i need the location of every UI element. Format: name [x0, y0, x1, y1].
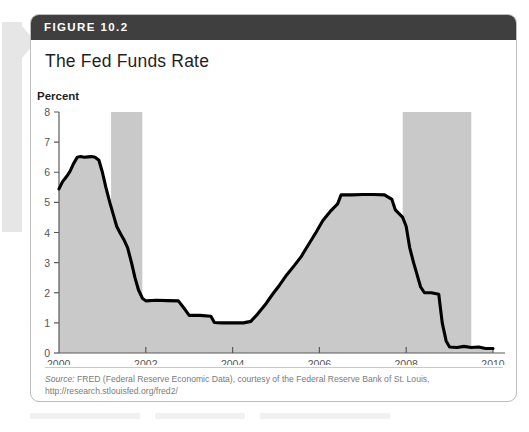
source-text: FRED (Federal Reserve Economic Data), co… — [75, 374, 430, 384]
figure-header-bar: FIGURE 10.2 — [30, 14, 517, 40]
source-note: Source: FRED (Federal Reserve Economic D… — [45, 373, 505, 397]
y-axis-ticks: 012345678 — [44, 106, 59, 359]
x-tick-label: 2000 — [47, 358, 71, 365]
page-margin-bar — [2, 22, 22, 232]
y-tick-label: 8 — [44, 106, 50, 118]
x-tick-label: 2008 — [395, 358, 419, 365]
x-tick-label: 2002 — [134, 358, 158, 365]
y-axis-label: Percent — [37, 90, 79, 102]
y-tick-label: 3 — [44, 257, 50, 269]
y-tick-label: 1 — [44, 317, 50, 329]
source-divider — [45, 367, 503, 368]
figure-title: The Fed Funds Rate — [45, 51, 209, 72]
y-tick-label: 4 — [44, 227, 50, 239]
figure-card: FIGURE 10.2 The Fed Funds Rate 012345678… — [30, 14, 517, 402]
x-tick-label: 2006 — [308, 358, 332, 365]
y-tick-label: 2 — [44, 287, 50, 299]
y-tick-label: 6 — [44, 166, 50, 178]
y-tick-label: 5 — [44, 196, 50, 208]
fed-funds-rate-chart: 012345678 200020022004200620082010 Perce… — [31, 75, 517, 365]
x-tick-label: 2010 — [481, 358, 505, 365]
figure-number-label: FIGURE 10.2 — [30, 21, 128, 33]
source-url: http://research.stlouisfed.org/fred2/ — [45, 386, 178, 396]
chart-plot-area: 012345678 200020022004200620082010 Perce… — [31, 75, 517, 365]
x-tick-label: 2004 — [221, 358, 245, 365]
source-label: Source: — [45, 374, 75, 384]
y-tick-label: 7 — [44, 136, 50, 148]
